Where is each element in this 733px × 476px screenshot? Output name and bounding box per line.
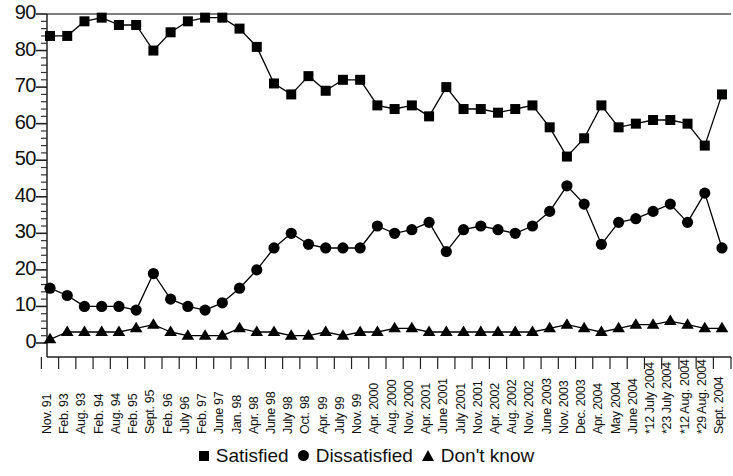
data-point-dissatisfied-24[interactable] xyxy=(458,224,469,235)
data-point-satisfied-35[interactable] xyxy=(648,115,658,125)
data-point-satisfied-6[interactable] xyxy=(148,46,158,56)
data-point-dissatisfied-18[interactable] xyxy=(355,242,366,253)
data-point-dissatisfied-28[interactable] xyxy=(527,220,538,231)
data-point-satisfied-23[interactable] xyxy=(441,82,451,92)
data-point-dissatisfied-33[interactable] xyxy=(613,217,624,228)
data-point-satisfied-16[interactable] xyxy=(321,86,331,96)
data-point-dissatisfied-39[interactable] xyxy=(716,242,727,253)
data-point-dissatisfied-1[interactable] xyxy=(62,290,73,301)
data-point-satisfied-26[interactable] xyxy=(493,108,503,118)
data-point-don-t-know-16[interactable] xyxy=(319,326,332,337)
data-point-don-t-know-26[interactable] xyxy=(492,326,505,337)
data-point-dissatisfied-13[interactable] xyxy=(268,242,279,253)
data-point-dissatisfied-17[interactable] xyxy=(337,242,348,253)
data-point-don-t-know-1[interactable] xyxy=(61,326,74,337)
data-point-don-t-know-21[interactable] xyxy=(406,322,419,333)
data-point-satisfied-14[interactable] xyxy=(286,89,296,99)
data-point-satisfied-31[interactable] xyxy=(579,133,589,143)
data-point-satisfied-33[interactable] xyxy=(614,122,624,132)
data-point-satisfied-28[interactable] xyxy=(527,100,537,110)
data-point-satisfied-32[interactable] xyxy=(596,100,606,110)
data-point-dissatisfied-19[interactable] xyxy=(372,220,383,231)
data-point-don-t-know-30[interactable] xyxy=(561,318,574,329)
data-point-don-t-know-11[interactable] xyxy=(233,322,246,333)
data-point-satisfied-19[interactable] xyxy=(372,100,382,110)
data-point-satisfied-7[interactable] xyxy=(166,27,176,37)
data-point-don-t-know-36[interactable] xyxy=(664,315,677,326)
data-point-dissatisfied-0[interactable] xyxy=(44,283,55,294)
legend-item-don-t-know[interactable]: Don't know xyxy=(422,446,534,465)
data-point-satisfied-12[interactable] xyxy=(252,42,262,52)
data-point-don-t-know-13[interactable] xyxy=(268,326,281,337)
legend-item-satisfied[interactable]: Satisfied xyxy=(199,446,289,465)
data-point-satisfied-29[interactable] xyxy=(545,122,555,132)
data-point-satisfied-22[interactable] xyxy=(424,111,434,121)
data-point-dissatisfied-3[interactable] xyxy=(96,301,107,312)
data-point-dissatisfied-36[interactable] xyxy=(665,198,676,209)
data-point-satisfied-9[interactable] xyxy=(200,13,210,23)
data-point-dissatisfied-31[interactable] xyxy=(579,198,590,209)
data-point-satisfied-15[interactable] xyxy=(303,71,313,81)
data-point-dissatisfied-8[interactable] xyxy=(182,301,193,312)
data-point-don-t-know-2[interactable] xyxy=(78,326,91,337)
data-point-satisfied-0[interactable] xyxy=(45,31,55,41)
legend-item-dissatisfied[interactable]: Dissatisfied xyxy=(298,446,413,465)
data-point-don-t-know-3[interactable] xyxy=(95,326,108,337)
data-point-satisfied-4[interactable] xyxy=(114,20,124,30)
data-point-dissatisfied-16[interactable] xyxy=(320,242,331,253)
data-point-dissatisfied-5[interactable] xyxy=(131,305,142,316)
data-point-dissatisfied-10[interactable] xyxy=(217,297,228,308)
data-point-satisfied-18[interactable] xyxy=(355,75,365,85)
data-point-satisfied-27[interactable] xyxy=(510,104,520,114)
data-point-satisfied-2[interactable] xyxy=(79,16,89,26)
data-point-dissatisfied-23[interactable] xyxy=(441,246,452,257)
data-point-don-t-know-9[interactable] xyxy=(199,329,212,340)
data-point-don-t-know-39[interactable] xyxy=(716,322,729,333)
data-point-don-t-know-23[interactable] xyxy=(440,326,453,337)
data-point-satisfied-8[interactable] xyxy=(183,16,193,26)
data-point-dissatisfied-20[interactable] xyxy=(389,228,400,239)
data-point-dissatisfied-37[interactable] xyxy=(682,217,693,228)
data-point-don-t-know-18[interactable] xyxy=(354,326,367,337)
data-point-satisfied-5[interactable] xyxy=(131,20,141,30)
data-point-satisfied-11[interactable] xyxy=(235,24,245,34)
data-point-don-t-know-27[interactable] xyxy=(509,326,522,337)
data-point-dissatisfied-32[interactable] xyxy=(596,239,607,250)
data-point-don-t-know-6[interactable] xyxy=(147,318,160,329)
data-point-dissatisfied-2[interactable] xyxy=(79,301,90,312)
data-point-dissatisfied-27[interactable] xyxy=(510,228,521,239)
data-point-satisfied-1[interactable] xyxy=(62,31,72,41)
data-point-dissatisfied-29[interactable] xyxy=(544,206,555,217)
data-point-don-t-know-24[interactable] xyxy=(457,326,470,337)
data-point-dissatisfied-11[interactable] xyxy=(234,283,245,294)
data-point-dissatisfied-38[interactable] xyxy=(699,188,710,199)
data-point-satisfied-30[interactable] xyxy=(562,152,572,162)
data-point-satisfied-34[interactable] xyxy=(631,119,641,129)
data-point-dissatisfied-14[interactable] xyxy=(286,228,297,239)
data-point-dissatisfied-12[interactable] xyxy=(251,264,262,275)
data-point-satisfied-38[interactable] xyxy=(700,141,710,151)
data-point-dissatisfied-22[interactable] xyxy=(423,217,434,228)
data-point-don-t-know-25[interactable] xyxy=(474,326,487,337)
data-point-satisfied-13[interactable] xyxy=(269,78,279,88)
data-point-don-t-know-20[interactable] xyxy=(388,322,401,333)
data-point-satisfied-17[interactable] xyxy=(338,75,348,85)
data-point-satisfied-21[interactable] xyxy=(407,100,417,110)
data-point-dissatisfied-30[interactable] xyxy=(561,180,572,191)
data-point-satisfied-3[interactable] xyxy=(97,13,107,23)
data-point-dissatisfied-6[interactable] xyxy=(148,268,159,279)
data-point-satisfied-24[interactable] xyxy=(459,104,469,114)
data-point-dissatisfied-4[interactable] xyxy=(113,301,124,312)
data-point-dissatisfied-7[interactable] xyxy=(165,294,176,305)
data-point-dissatisfied-15[interactable] xyxy=(303,239,314,250)
data-point-dissatisfied-21[interactable] xyxy=(406,224,417,235)
data-point-satisfied-39[interactable] xyxy=(717,89,727,99)
data-point-dissatisfied-35[interactable] xyxy=(647,206,658,217)
data-point-don-t-know-34[interactable] xyxy=(630,318,643,329)
data-point-satisfied-36[interactable] xyxy=(665,115,675,125)
data-point-satisfied-10[interactable] xyxy=(217,13,227,23)
data-point-dissatisfied-26[interactable] xyxy=(492,224,503,235)
data-point-dissatisfied-25[interactable] xyxy=(475,220,486,231)
data-point-dissatisfied-34[interactable] xyxy=(630,213,641,224)
data-point-satisfied-20[interactable] xyxy=(390,104,400,114)
